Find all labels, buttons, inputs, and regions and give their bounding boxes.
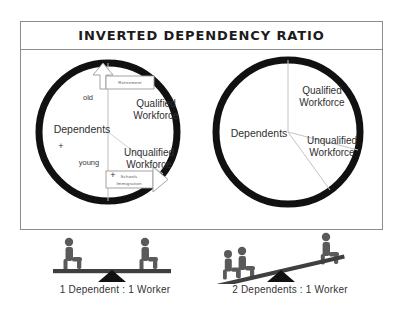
- seesaw-section: 1 Dependent : 1 Worker: [0, 232, 402, 310]
- left-plus-top: +: [58, 141, 63, 151]
- retirement-arrow-label: Retirement: [118, 80, 141, 85]
- figure-worker-left: [140, 238, 159, 270]
- left-young-label: young: [79, 158, 99, 167]
- right-qualified-line2: Workforce: [299, 97, 344, 108]
- infographic-root: INVERTED DEPENDENCY RATIO: [0, 0, 402, 310]
- seesaw-balanced-caption: 1 Dependent : 1 Worker: [25, 284, 205, 295]
- page-title: INVERTED DEPENDENCY RATIO: [21, 22, 382, 50]
- seesaw-tilted-caption: 2 Dependents : 1 Worker: [200, 284, 380, 295]
- left-qualified-line1: Qualified: [136, 98, 175, 109]
- immigration-arrow-label: Immigration: [116, 181, 141, 186]
- right-qualified-line1: Qualified: [302, 85, 341, 96]
- diagram-panel: INVERTED DEPENDENCY RATIO: [20, 21, 383, 230]
- schools-arrow-label: Schools: [120, 174, 137, 179]
- circles-area: old Dependents + young + Qualified Workf…: [21, 50, 382, 230]
- figure-dependent-left: [64, 238, 83, 270]
- left-qualified-line2: Workforce: [133, 110, 178, 121]
- left-unqualified-line2: Workforce: [126, 159, 171, 170]
- left-unqualified-line1: Unqualified: [124, 147, 174, 158]
- seesaw-tilted-svg: [200, 232, 380, 284]
- left-plus-bottom: +: [110, 170, 115, 180]
- seesaw-balanced-svg: [25, 232, 205, 284]
- right-unqualified-line2: Workforce: [309, 147, 354, 158]
- left-old-label: old: [83, 93, 93, 102]
- right-dependents-label: Dependents: [231, 127, 288, 139]
- seesaw-tilted: 2 Dependents : 1 Worker: [200, 232, 380, 310]
- figure-dependent-b: [237, 247, 255, 279]
- left-dependents-label: Dependents: [54, 123, 111, 135]
- seesaw-balanced: 1 Dependent : 1 Worker: [25, 232, 205, 310]
- right-unqualified-line1: Unqualified: [307, 135, 357, 146]
